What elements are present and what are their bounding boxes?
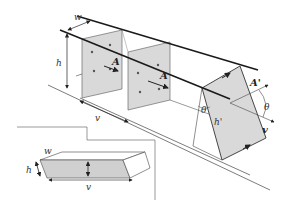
label-A-2: A [159,70,168,81]
h-dimension: h [56,34,82,88]
figure: w h A A A' v θ θ h' v w [0,0,290,212]
inset-label-h: h [26,165,32,175]
flux-diagram: w h A A A' v θ θ h' v w [0,0,290,212]
label-theta-left: θ [201,105,207,115]
label-A-prime: A' [249,77,261,88]
label-A-1: A [111,56,120,67]
label-v-right: v [262,124,268,135]
label-h-prime: h' [214,117,222,127]
label-w: w [74,12,82,22]
inset-label-v: v [86,182,91,192]
inset-label-w: w [44,146,52,156]
label-v-bottom: v [95,113,100,123]
label-theta-right: θ [264,102,270,112]
label-h: h [56,58,62,68]
inset-box: w h v [26,146,150,192]
w-dimension: w [68,12,90,30]
